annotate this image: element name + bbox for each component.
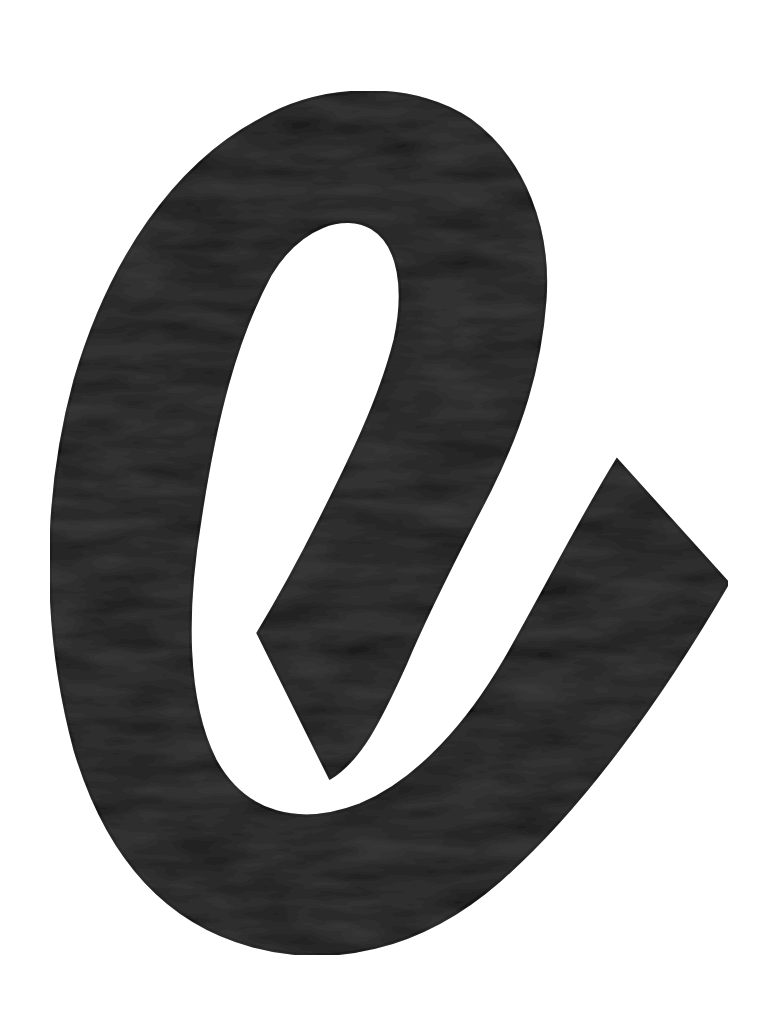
- letter-stroke: [51, 92, 728, 955]
- painting-canvas: e: [0, 0, 775, 1016]
- painted-letter-e: [0, 0, 775, 1016]
